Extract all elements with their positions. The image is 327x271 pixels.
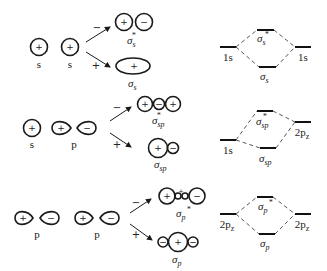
energy-diagram-p-p: 2pz σp* σp 2pz xyxy=(220,197,311,252)
svg-text:σsp: σsp xyxy=(154,158,167,173)
row-s-s: + s + s − + + − σs* + σs 1s σs* xyxy=(31,14,312,93)
svg-text:+: + xyxy=(92,60,100,71)
mo-sigma-s: + σs xyxy=(116,58,150,92)
svg-text:σp*: σp* xyxy=(258,198,272,215)
svg-text:−: − xyxy=(132,197,140,208)
row-s-p: + s + − p − + + − + σsp* + − σsp xyxy=(24,97,312,174)
svg-text:s: s xyxy=(37,58,41,70)
mo-diagram: + s + s − + + − σs* + σs 1s σs* xyxy=(0,0,327,271)
svg-text:2pz: 2pz xyxy=(295,126,310,141)
svg-text:σs: σs xyxy=(128,77,137,92)
svg-text:σp: σp xyxy=(172,253,181,268)
mo-sigma-sp-star: + − + σsp* xyxy=(138,97,181,130)
svg-text:p: p xyxy=(34,228,40,240)
svg-text:+: + xyxy=(57,123,65,133)
svg-text:σs*: σs* xyxy=(257,30,269,47)
svg-text:+: + xyxy=(130,61,138,71)
svg-text:−: − xyxy=(47,213,55,223)
svg-text:σs*: σs* xyxy=(127,31,136,49)
svg-text:σsp*: σsp* xyxy=(256,112,269,130)
svg-text:σsp: σsp xyxy=(259,152,272,167)
energy-diagram-s-s: 1s σs* σs 1s xyxy=(220,30,311,85)
svg-text:−: − xyxy=(140,17,148,27)
svg-text:+: + xyxy=(163,191,171,201)
svg-text:1s: 1s xyxy=(223,51,233,63)
svg-text:−: − xyxy=(193,191,201,201)
svg-text:+: + xyxy=(174,237,182,247)
svg-text:−: − xyxy=(155,99,163,109)
svg-text:−: − xyxy=(113,102,121,113)
svg-text:−: − xyxy=(189,237,197,247)
atomic-orbital-s-2: + s xyxy=(62,39,79,71)
energy-diagram-s-p: 1s σsp* σsp 2pz xyxy=(220,111,311,167)
svg-text:p: p xyxy=(94,228,100,240)
svg-text:−: − xyxy=(83,123,91,133)
svg-text:σs: σs xyxy=(260,70,269,85)
svg-text:1s: 1s xyxy=(223,144,233,156)
svg-text:+: + xyxy=(132,229,140,240)
atomic-orbital-p-2: + − p xyxy=(75,212,119,240)
svg-text:+: + xyxy=(19,213,27,223)
svg-text:2pz: 2pz xyxy=(220,218,235,233)
mo-sigma-s-star: + − σs* xyxy=(116,14,153,50)
svg-text:−: − xyxy=(93,22,101,33)
row-p-p: + − p + − p − + + + − σp* − xyxy=(15,187,311,269)
atomic-orbital-p-1: + − p xyxy=(15,212,59,240)
svg-text:+: + xyxy=(141,99,149,109)
svg-text:1s: 1s xyxy=(298,51,308,63)
atomic-orbital-s: + s xyxy=(24,120,41,151)
svg-text:+: + xyxy=(169,99,177,109)
svg-text:+: + xyxy=(154,143,162,153)
svg-text:−: − xyxy=(169,143,177,153)
svg-text:−: − xyxy=(159,237,167,247)
atomic-orbital-p: + − p xyxy=(52,122,96,150)
svg-text:+: + xyxy=(28,123,36,133)
svg-text:+: + xyxy=(113,139,121,150)
svg-text:+: + xyxy=(66,42,74,52)
svg-text:+: + xyxy=(35,42,43,52)
mo-sigma-p-star: + + − σp* xyxy=(159,187,205,223)
svg-text:2pz: 2pz xyxy=(295,218,310,233)
atomic-orbital-s-1: + s xyxy=(31,39,48,71)
mo-sigma-p: − + − σp xyxy=(158,233,198,269)
svg-text:+: + xyxy=(79,213,87,223)
svg-text:s: s xyxy=(30,138,34,150)
svg-text:σp*: σp* xyxy=(176,205,190,222)
svg-text:−: − xyxy=(107,213,115,223)
svg-text:σsp*: σsp* xyxy=(152,111,165,129)
mo-sigma-sp: + − σsp xyxy=(149,139,179,174)
svg-text:+: + xyxy=(120,17,128,27)
svg-text:s: s xyxy=(68,58,72,70)
svg-text:+: + xyxy=(178,187,183,194)
svg-text:p: p xyxy=(71,138,77,150)
svg-text:σp: σp xyxy=(260,237,269,252)
